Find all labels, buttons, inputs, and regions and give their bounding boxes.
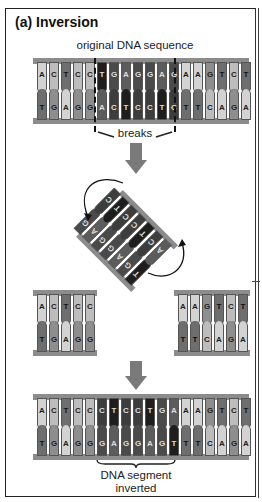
arrow-down-1-icon bbox=[125, 160, 147, 174]
nucleotide-C: C bbox=[145, 89, 155, 120]
nucleotide-A: A bbox=[238, 321, 248, 352]
nucleotide-T: T bbox=[37, 425, 47, 456]
nucleotide-T: T bbox=[169, 425, 179, 456]
nucleotide-T: T bbox=[157, 89, 167, 120]
inverted-label-line1: DNA segment bbox=[90, 469, 182, 482]
nucleotide-T: T bbox=[178, 321, 188, 352]
nucleotide-C: C bbox=[109, 89, 119, 120]
nucleotide-T: T bbox=[193, 89, 203, 120]
nucleotide-A: A bbox=[97, 89, 107, 120]
original-sequence-label: original DNA sequence bbox=[40, 39, 230, 51]
nucleotide-A: A bbox=[241, 89, 251, 120]
nucleotide-G: G bbox=[85, 425, 95, 456]
inverted-label-line2: inverted bbox=[90, 482, 182, 495]
nucleotide-A: A bbox=[217, 89, 227, 120]
right-fragment: AAGTCTTTCAGA bbox=[174, 290, 250, 356]
right-break-line bbox=[174, 58, 176, 132]
nucleotide-G: G bbox=[49, 321, 59, 352]
nucleotide-T: T bbox=[121, 89, 131, 120]
nucleotide-A: A bbox=[241, 425, 251, 456]
arrow-down-2-shaft bbox=[130, 361, 142, 377]
nucleotide-G: G bbox=[157, 425, 167, 456]
nucleotide-T: T bbox=[181, 89, 191, 120]
nucleotide-C: C bbox=[205, 89, 215, 120]
arrow-down-2-icon bbox=[125, 376, 147, 390]
nucleotide-A: A bbox=[61, 89, 71, 120]
nucleotide-A: A bbox=[145, 425, 155, 456]
nucleotide-T: T bbox=[37, 321, 47, 352]
nucleotide-T: T bbox=[190, 321, 200, 352]
nucleotide-T: T bbox=[37, 89, 47, 120]
nucleotide-G: G bbox=[49, 89, 59, 120]
nucleotide-A: A bbox=[61, 425, 71, 456]
nucleotide-G: G bbox=[226, 321, 236, 352]
nucleotide-A: A bbox=[109, 425, 119, 456]
nucleotide-C: C bbox=[133, 89, 143, 120]
nucleotide-C: C bbox=[205, 425, 215, 456]
page-edge-tick bbox=[252, 281, 260, 282]
arrow-down-1-shaft bbox=[130, 143, 142, 161]
breaks-label: breaks bbox=[110, 127, 160, 139]
inverted-label: DNA segment inverted bbox=[90, 469, 182, 495]
nucleotide-G: G bbox=[229, 89, 239, 120]
nucleotide-T: T bbox=[181, 425, 191, 456]
figure-title: (a) Inversion bbox=[15, 14, 98, 30]
nucleotide-C: C bbox=[202, 321, 212, 352]
nucleotide-G: G bbox=[85, 321, 95, 352]
nucleotide-G: G bbox=[73, 321, 83, 352]
left-fragment: ACTCCTGAGG bbox=[33, 290, 97, 356]
page-edge-line bbox=[258, 8, 259, 498]
inverted-dna-strand: ACTCCCTCCTGAAAGTCTTGAGGGAGGAGTTTCAGA bbox=[33, 394, 249, 460]
rotation-arrows bbox=[40, 175, 220, 285]
nucleotide-T: T bbox=[193, 425, 203, 456]
nucleotide-G: G bbox=[73, 425, 83, 456]
nucleotide-G: G bbox=[133, 425, 143, 456]
nucleotide-G: G bbox=[73, 89, 83, 120]
nucleotide-A: A bbox=[214, 321, 224, 352]
rotation-arrow-head-1 bbox=[84, 213, 92, 221]
nucleotide-G: G bbox=[121, 425, 131, 456]
nucleotide-A: A bbox=[61, 321, 71, 352]
nucleotide-G: G bbox=[229, 425, 239, 456]
original-dna-strand: ACTCCTGAGGAGAAGTCTTGAGGACTCCTCTTCAGA bbox=[33, 58, 249, 124]
nucleotide-G: G bbox=[49, 425, 59, 456]
nucleotide-A: A bbox=[217, 425, 227, 456]
rotation-arrow-head-2 bbox=[178, 239, 186, 247]
left-break-line bbox=[94, 58, 96, 132]
nucleotide-G: G bbox=[97, 425, 107, 456]
